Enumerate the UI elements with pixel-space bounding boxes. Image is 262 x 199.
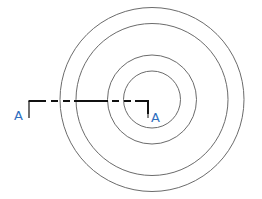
section-label-left: A [14,108,23,123]
third-circle [108,55,197,144]
section-diagram: A A [0,0,262,199]
second-circle [76,24,228,176]
section-line-a-a [29,100,150,118]
outer-circle [60,8,244,192]
section-label-right: A [151,110,160,125]
concentric-circles [60,8,244,192]
